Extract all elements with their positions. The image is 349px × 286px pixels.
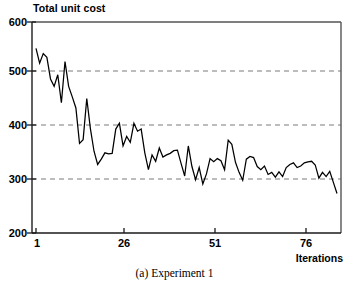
figure-experiment-1: Total unit cost xyxy=(0,0,349,286)
x-tick-label-1: 1 xyxy=(25,237,49,249)
x-tick-label-51: 51 xyxy=(203,237,227,249)
x-tick-label-26: 26 xyxy=(112,237,136,249)
y-tick-label-600: 600 xyxy=(1,16,27,28)
y-tick-label-400: 400 xyxy=(1,119,27,131)
y-tick-label-300: 300 xyxy=(1,173,27,185)
x-tick-label-76: 76 xyxy=(294,237,318,249)
data-series-line xyxy=(36,48,337,193)
x-axis-title: Iterations xyxy=(296,252,343,264)
y-tick-label-200: 200 xyxy=(1,227,27,239)
y-tick-label-500: 500 xyxy=(1,65,27,77)
figure-caption: (a) Experiment 1 xyxy=(0,267,349,279)
